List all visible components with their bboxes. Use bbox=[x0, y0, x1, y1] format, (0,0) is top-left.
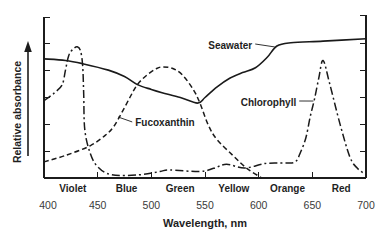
color-band-label: Violet bbox=[59, 183, 87, 194]
y-axis-label-group: Relative absorbance bbox=[11, 41, 32, 163]
annotation-leader-fucoxanthin bbox=[118, 117, 132, 122]
annotation-leader-seawater bbox=[255, 44, 275, 47]
color-band-label: Blue bbox=[116, 183, 138, 194]
series-line-seawater bbox=[44, 39, 366, 103]
x-tick-label: 550 bbox=[196, 199, 214, 211]
annotation-label-chlorophyll: Chlorophyll bbox=[241, 97, 297, 108]
x-tick-label: 700 bbox=[357, 199, 375, 211]
series-lines bbox=[44, 39, 366, 178]
x-tick-label: 400 bbox=[39, 199, 57, 211]
annotation-label-fucoxanthin: Fucoxanthin bbox=[135, 117, 194, 128]
x-axis-label: Wavelength, nm bbox=[163, 217, 247, 229]
x-tick-label: 600 bbox=[250, 199, 268, 211]
x-tick-label: 650 bbox=[304, 199, 322, 211]
y-axis-label: Relative absorbance bbox=[11, 61, 23, 163]
curve-annotations: SeawaterChlorophyllFucoxanthin bbox=[118, 40, 313, 129]
annotation-label-seawater: Seawater bbox=[208, 40, 252, 51]
color-band-label: Orange bbox=[270, 183, 305, 194]
x-tick-labels: 400450500550600650700 bbox=[39, 199, 375, 211]
color-band-label: Green bbox=[166, 183, 195, 194]
x-tick-label: 450 bbox=[89, 199, 107, 211]
color-band-label: Yellow bbox=[218, 183, 249, 194]
color-band-labels: VioletBlueGreenYellowOrangeRed bbox=[59, 183, 350, 194]
absorbance-spectrum-chart: 400450500550600650700 VioletBlueGreenYel… bbox=[0, 0, 386, 242]
up-arrow-icon bbox=[24, 41, 32, 156]
color-band-label: Red bbox=[332, 183, 351, 194]
x-tick-label: 500 bbox=[143, 199, 161, 211]
